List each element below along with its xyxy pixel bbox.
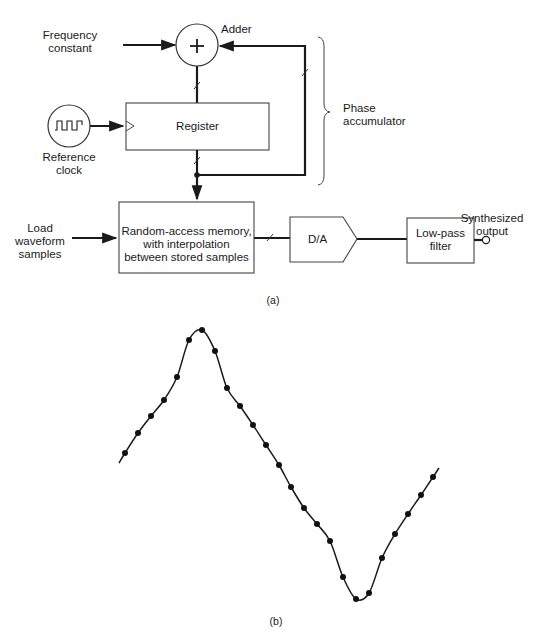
adder-block [176,24,218,66]
reference-clock-label: Reference clock [34,151,104,177]
sample-dot [314,521,320,527]
sample-dot [174,374,180,380]
sample-dot [263,442,269,448]
phase-accumulator-label: Phase accumulator [343,102,406,128]
synthesized-output-label: Synthesized output [452,212,532,238]
sample-dot [418,492,424,498]
phase-accumulator-brace [318,37,330,185]
diagram-canvas [0,0,552,638]
sample-dot [353,596,359,602]
sample-dot [212,348,218,354]
caption-b: (b) [256,615,296,628]
register-label: Register [126,120,269,133]
sample-dot [288,484,294,490]
frequency-constant-label: Frequency constant [30,29,110,55]
sample-dot [224,385,230,391]
sample-dot [237,403,243,409]
sample-dot [366,590,372,596]
sample-dot [430,474,436,480]
sample-dot [122,450,128,456]
adder-label: Adder [221,23,252,36]
sample-dot [135,430,141,436]
load-waveform-label: Load waveform samples [10,222,70,261]
sample-points [122,327,436,602]
sample-dot [340,574,346,580]
sample-dot [250,422,256,428]
sample-dot [276,462,282,468]
sample-dot [392,531,398,537]
ram-label: Random-access memory, with interpolation… [119,225,254,264]
sample-dot [148,413,154,419]
sample-dot [405,511,411,517]
reference-clock-icon [48,105,90,147]
sample-dot [327,538,333,544]
junction-dot [194,172,200,178]
sample-dot [301,505,307,511]
dac-label: D/A [290,233,345,246]
sample-dot [379,555,385,561]
sample-dot [186,337,192,343]
sample-dot [199,327,205,333]
caption-a: (a) [253,294,293,307]
sample-dot [161,397,167,403]
